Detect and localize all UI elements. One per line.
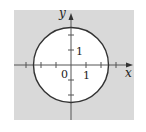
x-tick-label-1: 1 xyxy=(83,69,90,82)
x-axis-label: x xyxy=(125,66,132,80)
y-axis-label: y xyxy=(58,6,66,20)
origin-label: 0 xyxy=(61,68,68,81)
y-tick-label-1: 1 xyxy=(76,45,83,58)
circle-diagram: y x 0 1 1 xyxy=(0,0,146,132)
